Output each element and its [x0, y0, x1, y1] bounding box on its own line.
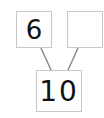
part-box-right-empty[interactable]	[67, 11, 103, 48]
whole-box: 10	[36, 70, 82, 112]
part-box-left: 6	[16, 11, 52, 48]
connector-right	[68, 48, 78, 70]
part-left-value: 6	[26, 15, 43, 45]
whole-value: 10	[39, 75, 79, 108]
connector-left	[41, 48, 51, 70]
number-bond-diagram: 6 10	[0, 0, 104, 118]
